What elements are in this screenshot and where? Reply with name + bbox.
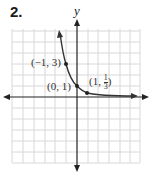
y-axis-up-arrow bbox=[74, 19, 80, 26]
point-1-third bbox=[85, 91, 89, 95]
axes bbox=[6, 22, 146, 168]
point-0-1 bbox=[75, 84, 79, 88]
label-point-neg1-3: (−1, 3) bbox=[31, 56, 61, 68]
x-axis-left-arrow bbox=[3, 94, 10, 100]
label-point-1-third: (1, 13) bbox=[89, 74, 111, 91]
point-neg1-3 bbox=[64, 62, 68, 66]
label-point-0-1: (0, 1) bbox=[47, 80, 71, 92]
curve-right-arrow bbox=[131, 93, 138, 99]
y-axis-down-arrow bbox=[74, 165, 80, 172]
graph bbox=[0, 0, 151, 174]
x-axis-right-arrow bbox=[142, 94, 149, 100]
